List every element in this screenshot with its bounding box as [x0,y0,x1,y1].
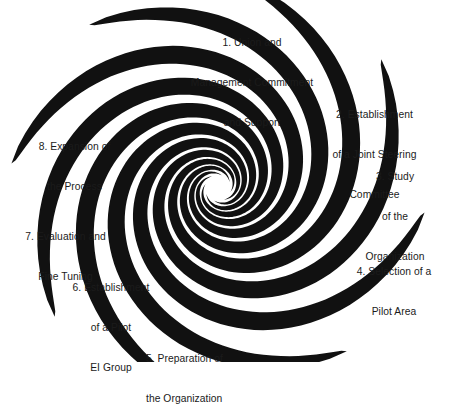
step-4-line-1: 4. Selection of a [339,265,449,278]
step-7-line-2: Fine Tuning [8,270,123,283]
step-8-line-1: 8. Expansion of [16,140,133,153]
step-1-line-1: 1. Union and [186,36,318,49]
step-1-line-2: Management Commitment [186,76,318,89]
step-label-4[interactable]: 4. Selection of a Pilot Area [339,238,449,345]
step-4-line-2: Pilot Area [339,305,449,318]
step-2-line-1: 2. Establishment [303,108,446,121]
step-7-line-1: 7. Evaluation and [8,230,123,243]
step-label-1[interactable]: 1. Union and Management Commitment and S… [186,9,318,156]
step-6-line-2: of a Pilot [48,321,174,334]
step-8-line-2: the Process [16,180,133,193]
step-3-line-1: 3. Study [343,170,447,183]
step-3-line-2: of the [343,210,447,223]
step-6-line-3: EI Group [48,361,174,374]
step-1-line-3: and Support [186,116,318,129]
step-label-8[interactable]: 8. Expansion of the Process [16,113,133,220]
